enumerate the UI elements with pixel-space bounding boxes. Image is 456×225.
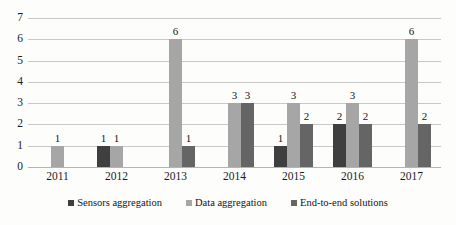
bar-2016-s0 (333, 124, 346, 167)
y-axis-tick-3: 3 (3, 97, 23, 109)
bar-group-2015: 132 (264, 18, 323, 167)
y-axis-tick-4: 4 (3, 76, 23, 88)
data-label: 1 (101, 133, 107, 144)
bar-slot: 1 (182, 18, 195, 167)
data-label: 1 (278, 133, 284, 144)
gridline-0 (28, 167, 441, 168)
data-label: 2 (363, 111, 369, 122)
plot-area: 111613313223262 (28, 18, 441, 167)
data-label: 6 (173, 26, 179, 37)
bar-slot (156, 18, 169, 167)
bar-group-2016: 232 (323, 18, 382, 167)
bar-slot: 2 (359, 18, 372, 167)
bar-2011-s1 (51, 146, 64, 167)
bar-slot (38, 18, 51, 167)
bar-slot: 2 (300, 18, 313, 167)
bar-slot (392, 18, 405, 167)
data-label: 3 (350, 90, 356, 101)
data-label: 1 (55, 133, 61, 144)
data-label: 2 (422, 111, 428, 122)
legend-label: Sensors aggregation (77, 198, 162, 209)
bar-slot: 2 (333, 18, 346, 167)
legend-item-2[interactable]: End-to-end solutions (291, 198, 388, 209)
x-axis-tick-2016: 2016 (323, 171, 383, 183)
chart-legend: Sensors aggregationData aggregationEnd-t… (0, 198, 456, 209)
legend-swatch-icon (291, 200, 297, 206)
data-label: 6 (409, 26, 415, 37)
bar-slot (64, 18, 77, 167)
legend-item-1[interactable]: Data aggregation (186, 198, 267, 209)
bar-2015-s1 (287, 103, 300, 167)
bar-group-2011: 1 (28, 18, 87, 167)
x-axis-tick-2015: 2015 (264, 171, 324, 183)
bar-group-2014: 33 (205, 18, 264, 167)
legend-label: Data aggregation (195, 198, 267, 209)
bar-slot: 6 (405, 18, 418, 167)
y-axis-tick-2: 2 (3, 119, 23, 131)
bar-slot: 3 (287, 18, 300, 167)
bar-slot: 1 (110, 18, 123, 167)
data-label: 1 (186, 133, 192, 144)
bar-2017-s1 (405, 39, 418, 167)
bar-2017-s2 (418, 124, 431, 167)
bar-2016-s2 (359, 124, 372, 167)
bar-2012-s1 (110, 146, 123, 167)
bar-slot: 1 (274, 18, 287, 167)
legend-swatch-icon (68, 200, 74, 206)
y-axis-tick-1: 1 (3, 140, 23, 152)
bar-2014-s1 (228, 103, 241, 167)
bar-group-2013: 61 (146, 18, 205, 167)
y-axis-tick-5: 5 (3, 55, 23, 67)
x-axis-tick-2011: 2011 (28, 171, 88, 183)
bar-slot: 1 (97, 18, 110, 167)
x-axis-tick-2017: 2017 (382, 171, 442, 183)
data-label: 2 (337, 111, 343, 122)
bar-slot: 6 (169, 18, 182, 167)
bar-2014-s2 (241, 103, 254, 167)
x-axis-tick-2014: 2014 (205, 171, 265, 183)
bar-2013-s1 (169, 39, 182, 167)
bar-2016-s1 (346, 103, 359, 167)
bar-slot (123, 18, 136, 167)
bar-slot: 3 (241, 18, 254, 167)
data-label: 3 (232, 90, 238, 101)
y-axis-tick-7: 7 (3, 12, 23, 24)
y-axis-tick-0: 0 (3, 161, 23, 173)
data-label: 3 (291, 90, 297, 101)
legend-item-0[interactable]: Sensors aggregation (68, 198, 162, 209)
bar-2012-s0 (97, 146, 110, 167)
bar-group-2017: 62 (382, 18, 441, 167)
bar-slot: 3 (228, 18, 241, 167)
y-axis-tick-6: 6 (3, 34, 23, 46)
bar-2015-s0 (274, 146, 287, 167)
legend-swatch-icon (186, 200, 192, 206)
data-label: 2 (304, 111, 310, 122)
data-label: 1 (114, 133, 120, 144)
bar-2015-s2 (300, 124, 313, 167)
bar-2013-s2 (182, 146, 195, 167)
data-label: 3 (245, 90, 251, 101)
bar-chart: 01234567 111613313223262 201120122013201… (0, 0, 456, 225)
bar-group-2012: 11 (87, 18, 146, 167)
x-axis-tick-2012: 2012 (87, 171, 147, 183)
bar-slot: 1 (51, 18, 64, 167)
x-axis-tick-2013: 2013 (146, 171, 206, 183)
bar-slot: 3 (346, 18, 359, 167)
legend-label: End-to-end solutions (300, 198, 388, 209)
bar-slot: 2 (418, 18, 431, 167)
bar-slot (215, 18, 228, 167)
